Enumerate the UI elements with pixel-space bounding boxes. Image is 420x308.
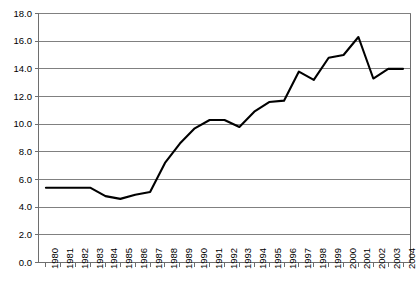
y-tick-label: 10.0 xyxy=(2,119,32,129)
x-tick-label: 1983 xyxy=(95,247,105,268)
axes-group xyxy=(39,14,411,263)
x-tick-label: 1999 xyxy=(333,247,343,268)
x-tick-label: 1989 xyxy=(184,247,194,268)
y-tick-label: 12.0 xyxy=(2,92,32,102)
x-tick-label: 1990 xyxy=(199,247,209,268)
y-tick-label: 18.0 xyxy=(2,9,32,19)
y-tick-label: 8.0 xyxy=(2,147,32,157)
y-tick-label: 0.0 xyxy=(2,258,32,268)
x-tick-label: 1987 xyxy=(154,247,164,268)
x-tick-label: 1994 xyxy=(258,247,268,268)
data-series-group xyxy=(46,37,403,199)
line-chart: 0.02.04.06.08.010.012.014.016.018.0 1980… xyxy=(0,0,420,308)
x-tick-label: 2001 xyxy=(362,247,372,268)
data-line xyxy=(46,37,403,199)
x-tick-label: 1981 xyxy=(65,247,75,268)
x-tick-label: 1980 xyxy=(50,247,60,268)
x-tick-label: 2002 xyxy=(377,247,387,268)
y-tick-label: 4.0 xyxy=(2,202,32,212)
y-tick-marks-group xyxy=(35,14,39,263)
x-tick-label: 1988 xyxy=(169,247,179,268)
x-tick-label: 1982 xyxy=(80,247,90,268)
x-tick-label: 1996 xyxy=(288,247,298,268)
x-tick-label: 1998 xyxy=(318,247,328,268)
y-tick-label: 16.0 xyxy=(2,36,32,46)
x-tick-label: 1995 xyxy=(273,247,283,268)
x-tick-label: 1993 xyxy=(243,247,253,268)
x-tick-label: 2004 xyxy=(407,247,417,268)
x-tick-label: 1991 xyxy=(214,247,224,268)
y-tick-label: 2.0 xyxy=(2,230,32,240)
y-tick-label: 6.0 xyxy=(2,175,32,185)
x-tick-label: 2000 xyxy=(348,247,358,268)
x-tick-label: 1986 xyxy=(139,247,149,268)
gridlines-group xyxy=(39,14,411,235)
x-tick-label: 2003 xyxy=(392,247,402,268)
x-tick-label: 1992 xyxy=(229,247,239,268)
x-tick-label: 1984 xyxy=(109,247,119,268)
x-tick-label: 1997 xyxy=(303,247,313,268)
y-tick-label: 14.0 xyxy=(2,64,32,74)
x-tick-label: 1985 xyxy=(124,247,134,268)
